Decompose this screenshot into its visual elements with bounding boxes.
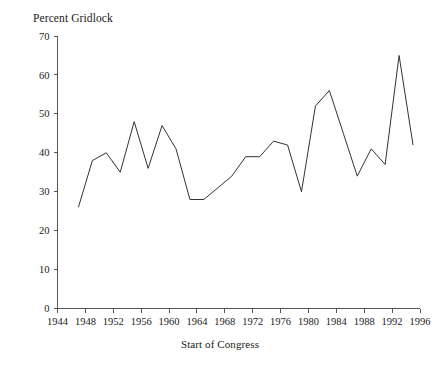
x-axis-label: Start of Congress — [0, 338, 440, 350]
y-tick-label: 30 — [39, 186, 50, 197]
y-tick-label: 0 — [44, 303, 49, 314]
data-series-line — [78, 55, 413, 207]
x-tick-label: 1960 — [159, 316, 180, 327]
x-tick-label: 1996 — [410, 316, 431, 327]
x-tick-label: 1980 — [298, 316, 319, 327]
chart-figure: Percent Gridlock 01020304050607019441948… — [0, 0, 440, 366]
x-tick-label: 1944 — [47, 316, 69, 327]
series-group — [78, 55, 413, 207]
plot-area: 0102030405060701944194819521956196019641… — [0, 0, 440, 366]
y-tick-label: 70 — [39, 31, 50, 42]
y-tick-label: 20 — [39, 225, 50, 236]
x-tick-label: 1964 — [186, 316, 208, 327]
axes-group: 0102030405060701944194819521956196019641… — [39, 31, 431, 327]
x-tick-label: 1992 — [382, 316, 403, 327]
y-tick-label: 60 — [39, 70, 50, 81]
y-tick-label: 50 — [39, 108, 50, 119]
x-tick-label: 1956 — [131, 316, 152, 327]
x-tick-label: 1972 — [242, 316, 263, 327]
x-tick-label: 1976 — [270, 316, 291, 327]
y-tick-label: 10 — [39, 264, 50, 275]
x-tick-label: 1988 — [354, 316, 375, 327]
y-tick-label: 40 — [39, 147, 50, 158]
x-tick-label: 1952 — [103, 316, 124, 327]
x-tick-label: 1984 — [326, 316, 348, 327]
x-tick-label: 1948 — [75, 316, 96, 327]
x-tick-label: 1968 — [214, 316, 235, 327]
